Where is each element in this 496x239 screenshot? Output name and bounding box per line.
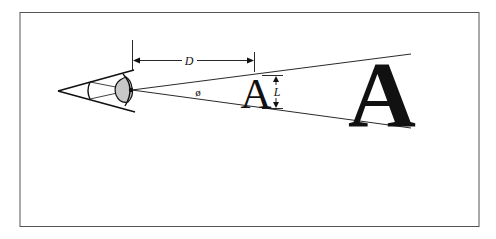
arrow-down-icon	[273, 102, 279, 108]
eye-icon	[58, 70, 135, 112]
distance-label: D	[184, 54, 194, 68]
angle-label: ø	[195, 86, 201, 98]
arrow-left-icon	[133, 58, 140, 64]
large-letter: A	[348, 42, 416, 146]
visual-angle-diagram: D ø A L A	[0, 0, 496, 239]
arrow-right-icon	[247, 58, 254, 64]
arrow-up-icon	[273, 76, 279, 82]
size-label: L	[273, 85, 281, 99]
distance-dimension	[133, 40, 255, 72]
small-letter: A	[240, 70, 271, 117]
